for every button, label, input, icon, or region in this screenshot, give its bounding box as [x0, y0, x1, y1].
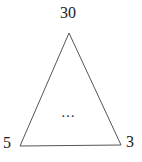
- bottom-right-vertex-label: 3: [126, 134, 134, 150]
- center-ellipsis-label: …: [61, 106, 75, 120]
- top-vertex-label: 30: [60, 5, 76, 21]
- triangle-outline: [20, 33, 121, 146]
- triangle-diagram: 30 5 3 …: [0, 0, 142, 162]
- bottom-left-vertex-label: 5: [3, 135, 11, 151]
- triangle-shape: [0, 0, 142, 162]
